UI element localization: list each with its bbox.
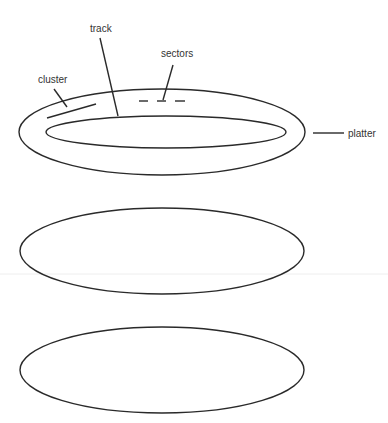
- track-leader-line: [100, 38, 118, 116]
- platter-diagram: track sectors cluster platter: [0, 0, 388, 423]
- cluster-label: cluster: [38, 74, 68, 85]
- sectors-leader-line: [163, 65, 173, 100]
- platter-outer-edge: [19, 89, 305, 175]
- platter-bottom: [20, 327, 304, 413]
- track-label: track: [90, 23, 113, 34]
- cluster-leader-line: [54, 89, 67, 107]
- sectors-label: sectors: [161, 48, 193, 59]
- platter-middle: [20, 208, 304, 294]
- platter-top: [19, 89, 305, 175]
- platter-inner-track: [46, 116, 286, 148]
- cluster-mark: [47, 104, 96, 118]
- platter-label: platter: [348, 128, 376, 139]
